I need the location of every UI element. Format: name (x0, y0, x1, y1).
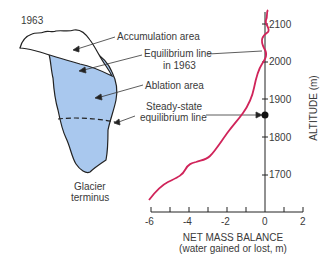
x-tick-label: 0 (262, 216, 268, 227)
y-tick-label: 1900 (269, 94, 292, 105)
mass-balance-chart: -6 -4 -2 0 2 1700 1800 1900 2000 2100 AL… (145, 10, 319, 254)
terminus-label-2: terminus (71, 192, 109, 203)
ablation-area-label: Ablation area (145, 80, 204, 91)
x-tick-label: -6 (145, 216, 154, 227)
year-label: 1963 (21, 15, 44, 26)
steady-state-label-2: equilibrium line (140, 112, 207, 123)
x-tick-label: 2 (300, 216, 306, 227)
x-axis-sublabel: (water gained or lost, m) (179, 243, 287, 254)
x-axis-label: NET MASS BALANCE (183, 232, 284, 243)
steady-state-label-1: Steady-state (146, 101, 203, 112)
equilibrium-1963-label-2: in 1963 (163, 60, 196, 71)
glacier-mass-balance-diagram: 1963 Accumulation area Equilibrium line … (0, 0, 331, 262)
y-tick-label: 2000 (269, 56, 292, 67)
accumulation-area-label: Accumulation area (117, 31, 200, 42)
x-tick-label: -2 (221, 216, 230, 227)
y-tick-label: 1700 (269, 169, 292, 180)
y-tick-label: 1800 (269, 132, 292, 143)
x-ticks (151, 207, 303, 212)
y-tick-label: 2100 (269, 19, 292, 30)
equilibrium-1963-label-1: Equilibrium line (144, 48, 212, 59)
steady-state-marker (262, 112, 269, 119)
terminus-label-1: Glacier (74, 181, 106, 192)
x-tick-label: -4 (183, 216, 192, 227)
y-axis-label: ALTITUDE (m) (308, 75, 319, 140)
glacier-map: 1963 Accumulation area Equilibrium line … (20, 15, 262, 203)
